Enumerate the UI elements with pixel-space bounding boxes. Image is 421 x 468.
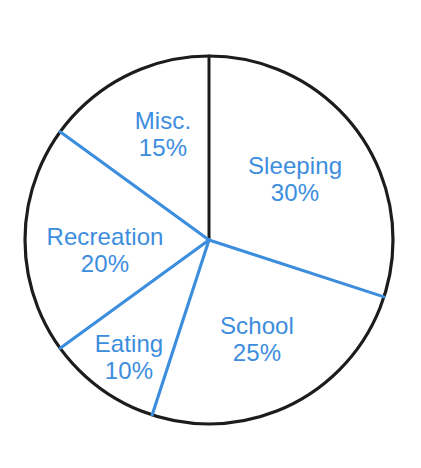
pie-slice-name: Eating <box>95 331 164 358</box>
pie-slice-label-eating: Eating10% <box>95 331 164 385</box>
pie-slice-value: 10% <box>95 358 164 385</box>
pie-chart: Sleeping30%School25%Eating10%Recreation2… <box>0 0 421 468</box>
pie-slice-name: Recreation <box>46 224 163 251</box>
pie-slice-value: 20% <box>46 251 163 278</box>
pie-slice-name: Misc. <box>135 108 192 135</box>
pie-slice-label-misc: Misc.15% <box>135 108 192 162</box>
pie-slice-value: 25% <box>220 340 294 367</box>
pie-slice-value: 30% <box>248 180 342 207</box>
pie-slice-name: Sleeping <box>248 153 342 180</box>
pie-slice-value: 15% <box>135 135 192 162</box>
pie-slice-name: School <box>220 313 294 340</box>
pie-slice-label-school: School25% <box>220 313 294 367</box>
pie-slice-label-sleeping: Sleeping30% <box>248 153 342 207</box>
pie-slice-label-recreation: Recreation20% <box>46 224 163 278</box>
